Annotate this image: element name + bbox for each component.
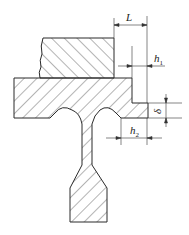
label-delta-symbol: δ — [151, 109, 163, 114]
label-h2-subscript: 2 — [136, 131, 140, 139]
label-h1: h1 — [154, 53, 163, 67]
label-h2: h2 — [130, 125, 139, 139]
lower-die-body — [14, 78, 148, 222]
die-cross-section-drawing — [0, 0, 189, 235]
label-L: L — [126, 12, 132, 23]
upper-die — [39, 38, 114, 78]
label-L-symbol: L — [126, 11, 132, 23]
label-h1-subscript: 1 — [160, 59, 164, 67]
label-delta: δ — [152, 109, 163, 114]
